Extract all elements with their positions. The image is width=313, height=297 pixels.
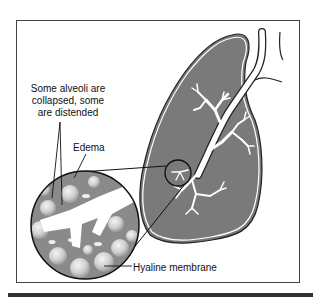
label-hyaline-membrane: Hyaline membrane [133,262,217,274]
label-line: Some alveoli are [22,83,114,95]
lung-shape [140,34,262,243]
lung-illustration [0,0,313,297]
label-alveoli-collapsed-distended: Some alveoli are collapsed, some are dis… [22,83,114,119]
label-line: collapsed, some [22,95,114,107]
label-edema: Edema [73,142,105,154]
label-line: are distended [22,107,114,119]
bottom-divider-bar [8,293,313,297]
